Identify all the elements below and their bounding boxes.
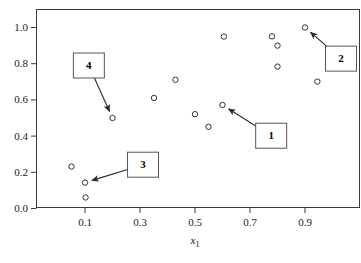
y-tick-label-0.6: 0.6	[2, 93, 28, 105]
y-tick-label-0.4: 0.4	[2, 130, 28, 142]
annotation-arrow	[94, 78, 109, 111]
data-point	[302, 25, 307, 30]
x-tick-label-0.1: 0.1	[70, 216, 100, 228]
x-tick-label-0.3: 0.3	[125, 216, 155, 228]
annotation-arrow	[229, 109, 256, 126]
y-tick-label-0.2: 0.2	[2, 166, 28, 178]
plot-frame	[37, 10, 360, 208]
data-point	[69, 164, 74, 169]
data-point	[275, 64, 280, 69]
data-point	[110, 115, 115, 120]
data-point	[315, 79, 320, 84]
x-axis-title-subscript: 1	[195, 240, 199, 249]
annotation-box-group	[73, 46, 356, 177]
data-point	[221, 34, 226, 39]
data-point	[82, 180, 87, 185]
data-point	[173, 77, 178, 82]
data-point	[275, 43, 280, 48]
x-axis-title: x1	[175, 234, 215, 249]
annotation-box	[128, 152, 159, 177]
data-point	[192, 112, 197, 117]
y-axis-ticks	[31, 28, 37, 209]
annotation-box	[326, 46, 357, 71]
scatter-plot-figure: 1.0 0.8 0.6 0.4 0.2 0.0 0.1 0.3 0.5 0.7 …	[0, 0, 361, 263]
annotation-arrow	[92, 169, 127, 180]
x-tick-label-0.7: 0.7	[235, 216, 265, 228]
y-tick-label-1.0: 1.0	[2, 21, 28, 33]
y-tick-label-0.0: 0.0	[2, 202, 28, 214]
annotation-box	[73, 53, 104, 78]
annotation-arrow	[311, 32, 327, 46]
data-point	[269, 34, 274, 39]
data-point	[83, 195, 88, 200]
data-point-group	[69, 25, 320, 200]
data-point	[220, 102, 225, 107]
y-tick-label-0.8: 0.8	[2, 57, 28, 69]
x-axis-ticks	[85, 208, 305, 214]
data-point	[206, 124, 211, 129]
annotation-box	[256, 123, 287, 148]
data-point	[151, 95, 156, 100]
x-tick-label-0.9: 0.9	[290, 216, 320, 228]
x-tick-label-0.5: 0.5	[180, 216, 210, 228]
